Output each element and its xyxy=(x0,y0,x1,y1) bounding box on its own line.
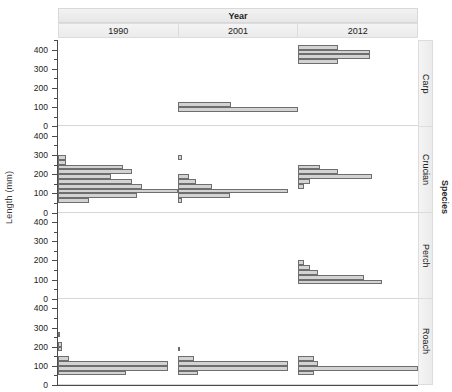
histogram-bar xyxy=(178,371,198,376)
histogram-bar xyxy=(298,280,382,285)
histogram-bar xyxy=(58,371,126,376)
histogram-bar xyxy=(298,184,304,189)
panel-carp-2001 xyxy=(178,40,298,126)
panel-row-roach xyxy=(58,299,418,385)
y-tick-label: 200 xyxy=(34,83,48,93)
species-outer-label: Species xyxy=(438,150,451,245)
y-tick-label: 0 xyxy=(43,294,48,304)
y-tick-label: 400 xyxy=(34,45,48,55)
y-tick-label: 400 xyxy=(34,131,48,141)
strip-col-2001: 2001 xyxy=(179,23,299,38)
panel-perch-2001 xyxy=(178,213,298,299)
y-tick-label: 100 xyxy=(34,188,48,198)
strip-row-carp: Carp xyxy=(418,40,433,127)
y-tick-label: 100 xyxy=(34,361,48,371)
y-tick-label: 200 xyxy=(34,342,48,352)
histogram-bar xyxy=(178,155,182,160)
panel-grid xyxy=(58,40,418,385)
panel-crucian-2012 xyxy=(298,126,418,212)
panel-crucian-2001 xyxy=(178,126,298,212)
y-tick-label: 0 xyxy=(43,208,48,218)
histogram-bar xyxy=(178,107,298,112)
histogram-bar xyxy=(298,59,338,64)
y-tick-label: 100 xyxy=(34,275,48,285)
year-column-strips: 1990 2001 2012 xyxy=(58,23,418,38)
year-outer-strip: Year xyxy=(58,8,418,23)
histogram-bar xyxy=(298,371,314,376)
y-tick-label: 300 xyxy=(34,64,48,74)
panel-row-perch xyxy=(58,213,418,299)
panel-roach-2012 xyxy=(298,299,418,385)
y-tick-label: 300 xyxy=(34,236,48,246)
panel-carp-1990 xyxy=(58,40,178,126)
panel-perch-2012 xyxy=(298,213,418,299)
panel-row-carp xyxy=(58,40,418,126)
panel-carp-2012 xyxy=(298,40,418,126)
y-tick-label: 100 xyxy=(34,102,48,112)
y-tick-label: 200 xyxy=(34,255,48,265)
species-row-strips: Carp Crucian Perch Roach xyxy=(418,40,433,385)
chart-root: Length (mm) Species Year 1990 2001 2012 … xyxy=(0,0,452,392)
histogram-bar xyxy=(178,347,180,352)
panel-roach-2001 xyxy=(178,299,298,385)
y-tick-label: 300 xyxy=(34,150,48,160)
panel-crucian-1990 xyxy=(58,126,178,212)
strip-col-2012: 2012 xyxy=(298,23,418,38)
y-tick-label: 0 xyxy=(43,380,48,390)
panel-roach-1990 xyxy=(58,299,178,385)
histogram-bar xyxy=(178,193,230,198)
histogram-bar xyxy=(58,198,89,203)
y-tick-label: 400 xyxy=(34,217,48,227)
y-tick-label: 400 xyxy=(34,303,48,313)
strip-row-crucian: Crucian xyxy=(418,127,433,213)
strip-row-perch: Perch xyxy=(418,213,433,299)
y-axis: 0100200300400010020030040001002003004000… xyxy=(50,40,58,385)
y-tick-label: 0 xyxy=(43,121,48,131)
histogram-bar xyxy=(178,198,182,203)
y-tick-label: 200 xyxy=(34,169,48,179)
x-axis-line xyxy=(58,385,418,386)
histogram-bar xyxy=(58,332,60,337)
strip-row-roach: Roach xyxy=(418,299,433,385)
panel-perch-1990 xyxy=(58,213,178,299)
histogram-bar xyxy=(58,347,62,352)
y-tick-label: 300 xyxy=(34,323,48,333)
strip-col-1990: 1990 xyxy=(58,23,179,38)
panel-row-crucian xyxy=(58,126,418,212)
y-axis-label: Length (mm) xyxy=(2,142,16,252)
histogram-bar xyxy=(298,366,418,371)
